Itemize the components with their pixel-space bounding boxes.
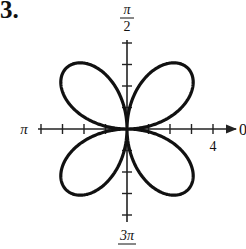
label-half-pi-num: π bbox=[123, 2, 131, 17]
radial-tick-label-4: 4 bbox=[210, 139, 217, 154]
label-zero: 0 bbox=[239, 121, 246, 138]
label-three-half-pi-num: 3π bbox=[119, 228, 135, 243]
polar-plot: π 2 π 0 4 3π bbox=[0, 0, 246, 249]
label-half-pi-den: 2 bbox=[124, 19, 131, 34]
label-pi: π bbox=[20, 121, 28, 137]
